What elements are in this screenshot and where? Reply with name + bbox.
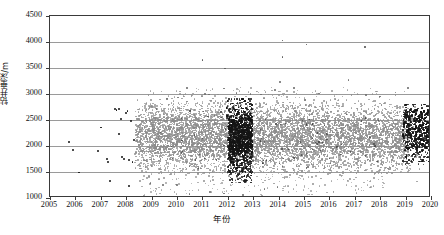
y-tick-label: 2000 [0,140,42,150]
x-tick-label: 2020 [413,200,444,210]
tick-mark-layer [50,16,429,196]
y-axis-title: 钻井垂深/m [1,62,13,105]
y-tick-mark [46,172,50,173]
y-tick-label: 4500 [0,10,42,20]
plot-area [49,15,430,197]
y-tick-mark [46,120,50,121]
y-tick-label: 1500 [0,166,42,176]
scatter-chart: 10001500200025003000350040004500 2005200… [0,0,444,235]
x-axis-title: 年份 [0,212,444,224]
y-tick-mark [46,94,50,95]
y-tick-label: 2500 [0,114,42,124]
y-tick-mark [46,16,50,17]
y-tick-mark [46,68,50,69]
y-tick-label: 4000 [0,36,42,46]
y-tick-mark [46,146,50,147]
y-tick-mark [46,42,50,43]
